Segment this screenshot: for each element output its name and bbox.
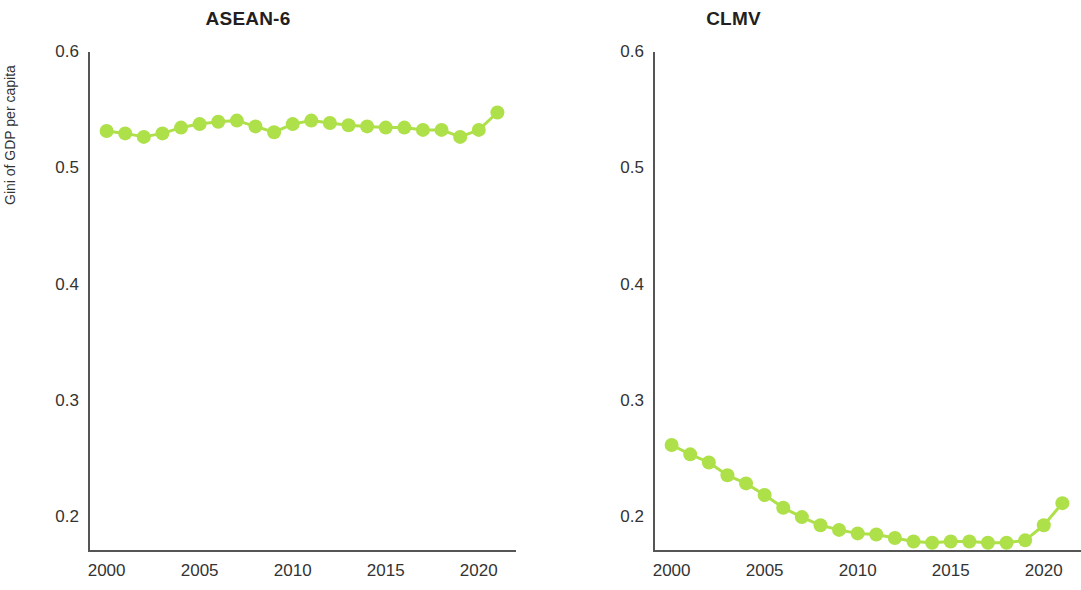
series-asean-6 bbox=[88, 52, 516, 552]
x-tick-label: 2005 bbox=[181, 561, 219, 581]
plot-area-asean6: 0.20.30.40.50.620002005201020152020 bbox=[88, 52, 516, 552]
data-point-marker bbox=[100, 124, 114, 138]
data-point-marker bbox=[323, 116, 337, 130]
data-point-marker bbox=[342, 118, 356, 132]
x-tick-label: 2020 bbox=[460, 561, 498, 581]
data-point-marker bbox=[453, 130, 467, 144]
data-point-marker bbox=[360, 119, 374, 133]
data-point-marker bbox=[1000, 536, 1014, 550]
data-point-marker bbox=[702, 455, 716, 469]
data-point-marker bbox=[435, 123, 449, 137]
data-point-marker bbox=[211, 115, 225, 129]
data-point-marker bbox=[137, 130, 151, 144]
panel-asean6: ASEAN-6 Gini of GDP per capita 0.20.30.4… bbox=[0, 0, 540, 590]
data-point-marker bbox=[869, 528, 883, 542]
data-point-marker bbox=[490, 105, 504, 119]
data-point-marker bbox=[397, 121, 411, 135]
data-point-marker bbox=[193, 117, 207, 131]
data-point-marker bbox=[683, 447, 697, 461]
x-tick-label: 2000 bbox=[653, 561, 691, 581]
panel-title-asean6: ASEAN-6 bbox=[0, 8, 518, 30]
series-clmv bbox=[653, 52, 1081, 552]
y-tick-label: 0.3 bbox=[55, 391, 79, 411]
data-point-marker bbox=[665, 438, 679, 452]
y-tick-label: 0.2 bbox=[55, 507, 79, 527]
x-tick-label: 2010 bbox=[274, 561, 312, 581]
y-tick-label: 0.3 bbox=[620, 391, 644, 411]
data-point-marker bbox=[795, 510, 809, 524]
data-point-marker bbox=[118, 126, 132, 140]
y-tick-label: 0.6 bbox=[620, 42, 644, 62]
data-point-marker bbox=[472, 123, 486, 137]
y-axis-title: Gini of GDP per capita bbox=[2, 5, 18, 205]
x-tick-label: 2015 bbox=[932, 561, 970, 581]
data-point-marker bbox=[174, 121, 188, 135]
data-point-marker bbox=[416, 123, 430, 137]
panel-clmv: CLMV 0.20.30.40.50.620002005201020152020 bbox=[540, 0, 1077, 590]
data-point-marker bbox=[248, 119, 262, 133]
data-point-marker bbox=[1018, 533, 1032, 547]
data-point-marker bbox=[739, 476, 753, 490]
data-point-marker bbox=[286, 117, 300, 131]
data-point-marker bbox=[813, 518, 827, 532]
y-tick-label: 0.5 bbox=[55, 158, 79, 178]
y-tick-label: 0.4 bbox=[620, 275, 644, 295]
plot-area-clmv: 0.20.30.40.50.620002005201020152020 bbox=[653, 52, 1081, 552]
data-point-marker bbox=[925, 536, 939, 550]
data-point-marker bbox=[832, 523, 846, 537]
data-point-marker bbox=[304, 114, 318, 128]
x-tick-label: 2005 bbox=[746, 561, 784, 581]
x-tick-label: 2015 bbox=[367, 561, 405, 581]
data-point-marker bbox=[379, 121, 393, 135]
data-point-marker bbox=[944, 535, 958, 549]
data-point-marker bbox=[888, 531, 902, 545]
data-point-marker bbox=[1055, 496, 1069, 510]
data-point-marker bbox=[981, 536, 995, 550]
data-point-marker bbox=[1037, 518, 1051, 532]
data-point-marker bbox=[155, 126, 169, 140]
x-tick-label: 2020 bbox=[1025, 561, 1063, 581]
y-tick-label: 0.2 bbox=[620, 507, 644, 527]
x-tick-label: 2000 bbox=[88, 561, 126, 581]
data-point-marker bbox=[962, 535, 976, 549]
y-tick-label: 0.6 bbox=[55, 42, 79, 62]
panel-title-clmv: CLMV bbox=[465, 8, 1002, 30]
x-tick-label: 2010 bbox=[839, 561, 877, 581]
data-point-marker bbox=[267, 125, 281, 139]
y-tick-label: 0.4 bbox=[55, 275, 79, 295]
data-point-marker bbox=[907, 535, 921, 549]
series-line bbox=[672, 445, 1063, 543]
data-point-marker bbox=[851, 526, 865, 540]
data-point-marker bbox=[720, 468, 734, 482]
data-point-marker bbox=[776, 501, 790, 515]
y-tick-label: 0.5 bbox=[620, 158, 644, 178]
data-point-marker bbox=[230, 114, 244, 128]
data-point-marker bbox=[758, 488, 772, 502]
